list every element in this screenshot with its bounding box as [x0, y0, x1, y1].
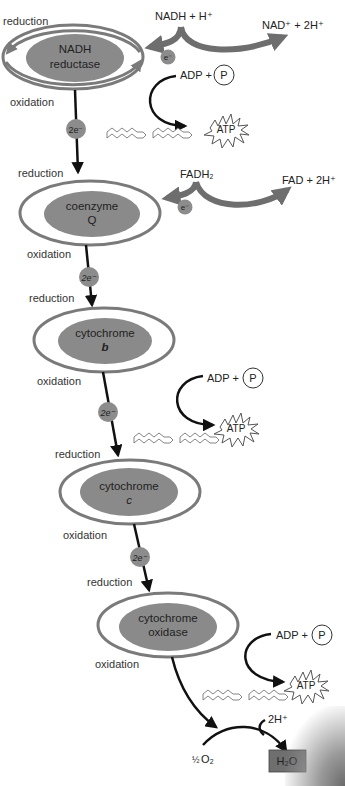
oxygen-fraction: ½ [192, 755, 200, 765]
electron-label: e⁻ [164, 53, 172, 62]
enzyme-name: NADH [59, 43, 92, 55]
electron-pair-label: 2e⁻ [99, 408, 116, 418]
enzyme-name: b [101, 341, 108, 353]
reduction-label: reduction [29, 292, 74, 304]
oxidation-label: oxidation [10, 96, 54, 108]
atp-site-3: ADP + P ATP [203, 625, 332, 704]
electron-pair-label: 2e⁻ [68, 125, 83, 135]
reduction-label: reduction [87, 576, 132, 588]
fadh2-input: FADH₂ FAD + 2H⁺ e⁻ [167, 168, 336, 215]
energy-arrow [249, 690, 288, 700]
corner-shadow [285, 706, 345, 786]
electron-transfer-3: 2e⁻ [98, 372, 118, 455]
enzyme-name: cytochrome [75, 327, 134, 339]
energy-arrow [153, 128, 192, 138]
electron-transfer-1: 2e⁻ [66, 90, 86, 172]
electron-transport-chain-diagram: reduction NADH reductase oxidation NADH … [0, 0, 345, 786]
enzyme-name: cytochrome [99, 480, 158, 492]
enzyme-name: oxidase [148, 626, 188, 638]
adp-label: ADP + [207, 372, 239, 384]
adp-label: ADP + [276, 629, 308, 641]
oxidation-label: oxidation [37, 375, 81, 387]
reduction-label: reduction [3, 15, 48, 27]
atp-label: ATP [227, 423, 246, 434]
nadh-input: NADH + H⁺ NAD⁺ + 2H⁺ e⁻ [150, 10, 324, 65]
enzyme-name: cytochrome [138, 612, 197, 624]
atp-label: ATP [297, 680, 316, 691]
oxidation-label: oxidation [63, 529, 107, 541]
nad-label: NAD⁺ + 2H⁺ [262, 19, 324, 31]
carrier-nadh-reductase: reduction NADH reductase oxidation [3, 15, 143, 108]
energy-arrow [180, 433, 219, 443]
electron-pair-label: 2e⁻ [131, 553, 148, 563]
energy-arrow [203, 690, 242, 700]
carrier-cytochrome-b: reduction cytochrome b oxidation [29, 292, 174, 387]
energy-arrow [107, 128, 146, 138]
phosphate-label: P [220, 69, 227, 81]
adp-label: ADP + [180, 69, 212, 81]
phosphate-label: P [249, 372, 256, 384]
electron-transfer-2: 2e⁻ [79, 245, 99, 305]
carrier-cytochrome-oxidase: reduction cytochrome oxidase oxidation [87, 576, 238, 670]
atp-site-2: ADP + P ATP [134, 368, 263, 447]
reduction-label: reduction [55, 448, 100, 460]
fadh2-label: FADH₂ [180, 168, 214, 180]
nadh-label: NADH + H⁺ [155, 10, 213, 22]
electron-label: e⁻ [181, 203, 189, 212]
carrier-coenzyme-q: reduction coenzyme Q oxidation [18, 167, 160, 260]
fad-label: FAD + 2H⁺ [282, 174, 336, 186]
enzyme-name: c [126, 494, 132, 506]
phosphate-label: P [318, 629, 325, 641]
enzyme-name: Q [88, 214, 97, 226]
electron-pair-label: 2e⁻ [80, 273, 97, 283]
energy-arrow [134, 433, 173, 443]
oxygen-label: O₂ [201, 753, 214, 765]
carrier-cytochrome-c: reduction cytochrome c oxidation [55, 448, 200, 541]
oxidation-label: oxidation [27, 248, 71, 260]
oxidation-label: oxidation [95, 658, 139, 670]
reduction-label: reduction [18, 167, 63, 179]
enzyme-name: coenzyme [66, 200, 118, 212]
enzyme-cytochrome-c [80, 468, 178, 516]
electron-transfer-4: 2e⁻ [130, 524, 150, 590]
atp-label: ATP [217, 124, 236, 135]
enzyme-name: reductase [50, 58, 101, 70]
